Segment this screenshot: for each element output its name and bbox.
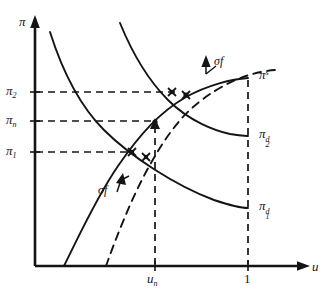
x-tick-label-one: 1 xyxy=(244,272,251,285)
x-axis-label: u xyxy=(312,260,319,273)
guide-lines-group xyxy=(36,80,248,264)
y-tick-label-pi-2: π2 xyxy=(6,84,17,100)
pi-1-d-subscript: 1 xyxy=(266,213,270,221)
curve-pi-s-shifted xyxy=(106,70,276,266)
point-pi1-b xyxy=(142,153,150,161)
y-tick-label-pi-1: π1 xyxy=(6,144,17,160)
pi-2-subscript: 2 xyxy=(13,91,17,100)
x-tick-label-u-n: un xyxy=(147,272,158,288)
curve-pi-2-d xyxy=(120,23,248,136)
pi-1-subscript: 1 xyxy=(13,151,17,160)
pi-2-d-subscript: 2 xyxy=(266,141,270,149)
tick-marks-group xyxy=(30,92,248,271)
annotation-sigma-f-upper: σf xyxy=(214,55,223,67)
curve-pi-s xyxy=(64,78,248,266)
u-n-subscript: n xyxy=(154,279,158,288)
pi-n-subscript: n xyxy=(13,120,17,129)
pi-s-superscript: s xyxy=(266,68,269,77)
curve-label-pi-1-d: π d 1 xyxy=(259,199,273,212)
y-axis-arrowhead xyxy=(30,15,40,28)
y-tick-label-pi-n: πn xyxy=(6,113,17,129)
x-axis-arrowhead xyxy=(297,261,310,271)
diagram-canvas xyxy=(0,0,328,298)
y-axis-label: π xyxy=(19,15,26,28)
annotation-sigma-f-lower: σf xyxy=(98,184,107,196)
curve-label-pi-2-d: π d 2 xyxy=(259,127,273,140)
sigma-f-lower-arrow xyxy=(116,173,129,192)
curve-label-pi-s: πs xyxy=(259,68,269,81)
